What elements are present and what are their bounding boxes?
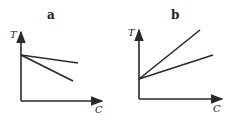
line-b-2: [139, 55, 213, 79]
line-b-1: [139, 30, 200, 79]
panel-a-x-label: C: [95, 104, 103, 115]
panel-a-y-label: T: [10, 29, 17, 40]
panel-a-title: a: [47, 8, 55, 22]
panel-a: [21, 32, 102, 101]
panel-b-x-label: C: [213, 103, 221, 114]
diagram-canvas: [0, 0, 232, 121]
panel-b-y-label: T: [128, 27, 135, 38]
panel-b-title: b: [171, 8, 179, 22]
panel-b: [139, 30, 222, 99]
